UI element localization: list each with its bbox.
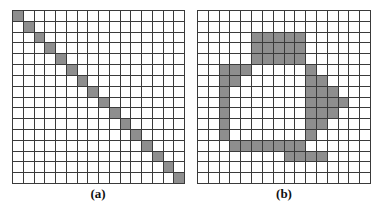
grid-cell [67,130,78,141]
grid-cell [78,11,89,22]
grid-cell [164,108,175,119]
grid-cell [349,65,360,76]
shaded-cell [285,141,296,152]
grid-cell [263,152,274,163]
grid-cell [360,173,371,184]
grid-cell [56,22,67,33]
grid-cell [67,54,78,65]
grid-cell [339,33,350,44]
grid-cell [88,76,99,87]
shaded-cell [110,108,121,119]
grid-cell [110,54,121,65]
grid-cell [56,98,67,109]
shaded-cell [306,108,317,119]
grid-cell [241,108,252,119]
grid-cell [360,11,371,22]
grid-cell [230,152,241,163]
grid-cell [174,22,185,33]
shaded-cell [220,119,231,130]
grid-cell [67,119,78,130]
shaded-cell [24,22,35,33]
grid-cell [241,87,252,98]
grid-cell [241,173,252,184]
grid-cell [220,162,231,173]
grid-cell [110,11,121,22]
grid-cell [174,162,185,173]
grid-cell [252,162,263,173]
shaded-cell [121,119,132,130]
grid-cell [78,98,89,109]
grid-cell [24,43,35,54]
grid-cell [285,11,296,22]
grid-cell [35,43,46,54]
shaded-cell [220,108,231,119]
grid-cell [56,43,67,54]
grid-cell [110,65,121,76]
grid-cell [285,108,296,119]
grid-cell [153,119,164,130]
grid-cell [349,76,360,87]
shaded-cell [295,141,306,152]
grid-cell [349,119,360,130]
grid-cell [328,119,339,130]
grid-cell [35,108,46,119]
grid-cell [88,162,99,173]
grid-cell [121,65,132,76]
grid-cell [56,108,67,119]
grid-cell [35,76,46,87]
grid-cell [349,173,360,184]
grid-cell [121,33,132,44]
grid-cell [35,152,46,163]
shaded-cell [230,141,241,152]
grid-cell [78,87,89,98]
shaded-cell [285,33,296,44]
grid-cell [164,173,175,184]
shaded-cell [317,108,328,119]
grid-cell [110,76,121,87]
grid-cell [317,141,328,152]
grid-cell [13,33,24,44]
shaded-cell [295,152,306,163]
grid-cell [88,130,99,141]
shaded-cell [306,152,317,163]
grid-cell [306,11,317,22]
grid-cell [360,141,371,152]
grid-cell [198,22,209,33]
shaded-cell [317,98,328,109]
grid-cell [67,108,78,119]
grid-cell [220,141,231,152]
grid-cell [339,54,350,65]
shaded-cell [295,43,306,54]
grid-cell [67,98,78,109]
grid-cell [78,141,89,152]
grid-cell [13,43,24,54]
grid-cell [88,54,99,65]
grid-cell [78,65,89,76]
shaded-cell [274,54,285,65]
grid-cell [295,173,306,184]
grid-cell [67,152,78,163]
grid-cell [328,76,339,87]
grid-cell [252,152,263,163]
grid-cell [252,87,263,98]
grid-cell [328,11,339,22]
grid-cell [67,141,78,152]
shaded-cell [339,98,350,109]
grid-cell [88,119,99,130]
shaded-cell [220,87,231,98]
grid-cell [174,54,185,65]
grid-cell [99,87,110,98]
grid-cell [230,108,241,119]
grid-cell [360,152,371,163]
grid-cell [328,65,339,76]
shaded-cell [285,43,296,54]
grid-cell [198,152,209,163]
shaded-cell [306,130,317,141]
grid-cell [35,141,46,152]
grid-cell [35,119,46,130]
grid-cell [230,43,241,54]
grid-cell [274,22,285,33]
grid-cell [110,22,121,33]
shaded-cell [285,152,296,163]
grid-cell [142,11,153,22]
